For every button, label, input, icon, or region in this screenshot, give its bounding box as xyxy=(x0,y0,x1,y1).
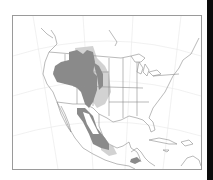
north-america-map xyxy=(13,16,201,169)
range-map xyxy=(12,15,202,170)
edge-bar xyxy=(207,0,213,180)
